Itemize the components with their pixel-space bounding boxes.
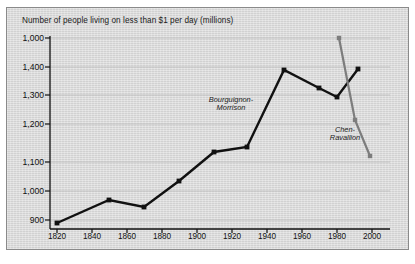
series-bourguignon-morrison: [55, 67, 361, 226]
y-axis-labels: 1,000 1,400 1,300 1,200 1,100 1,000 900: [6, 0, 44, 264]
series-annotation-bourguignon-morrison: Bourguignon- Morrison: [209, 96, 253, 113]
x-tick-label: 2000: [363, 232, 381, 241]
x-tick-label: 1900: [188, 232, 206, 241]
chart-figure: Number of people living on less than $1 …: [0, 0, 415, 264]
y-axis: [45, 36, 50, 229]
x-tick-label: 1980: [328, 232, 346, 241]
annotation-line: Morrison: [209, 104, 253, 112]
y-tick-label: 1,000: [22, 186, 44, 196]
x-tick-label: 1860: [118, 232, 136, 241]
series-annotation-chen-ravallion: Chen- Ravallion: [330, 126, 360, 143]
y-tick-label: 1,400: [22, 62, 44, 72]
x-tick-label: 1840: [83, 232, 101, 241]
x-tick-label: 1820: [48, 232, 66, 241]
x-tick-label: 1880: [153, 232, 171, 241]
x-tick-label: 1940: [258, 232, 276, 241]
y-tick-label: 1,000: [22, 33, 44, 43]
y-tick-label: 900: [30, 215, 44, 225]
x-tick-label: 1920: [223, 232, 241, 241]
x-tick-label: 1960: [293, 232, 311, 241]
annotation-line: Ravallion: [330, 134, 360, 142]
y-tick-label: 1,100: [22, 157, 44, 167]
y-tick-label: 1,200: [22, 119, 44, 129]
y-tick-label: 1,300: [22, 90, 44, 100]
